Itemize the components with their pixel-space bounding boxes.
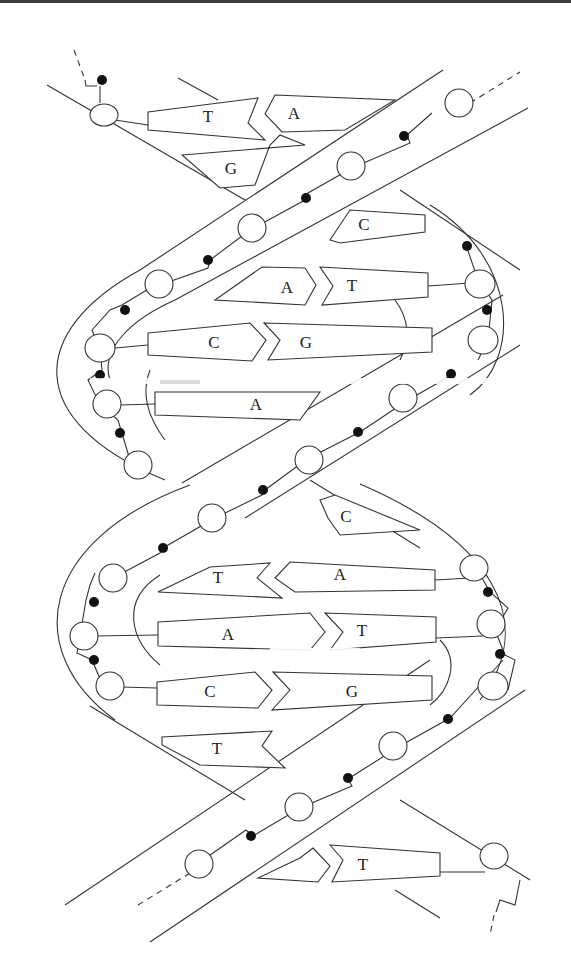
scan-smear (160, 380, 200, 384)
base-pair-5: C G (148, 323, 432, 361)
phosphate-icon (115, 428, 125, 438)
base-partial (258, 848, 330, 882)
base-label: T (212, 739, 223, 758)
base-T (162, 731, 285, 768)
phosphate-icon (399, 131, 409, 141)
strand-continuation-dash (74, 50, 85, 80)
base-pair-2: G (182, 135, 305, 188)
phosphate-icon (462, 241, 472, 251)
base-label: G (300, 333, 312, 352)
base-label: G (225, 159, 237, 178)
base-label: T (203, 107, 214, 126)
base-C (320, 495, 420, 535)
dna-double-helix-diagram: T A G C A T C G A C T A (0, 0, 571, 979)
base-pair-1: T A (148, 95, 395, 140)
base-label: A (334, 565, 347, 584)
sugar-icon (389, 384, 417, 412)
sugar-icon (96, 672, 124, 700)
phosphate-icon (482, 305, 492, 315)
sugar-icon (238, 214, 266, 242)
phosphate-icon (158, 543, 168, 553)
base-T (320, 267, 428, 305)
base-pair-6: A (155, 392, 320, 420)
sugar-icon (468, 326, 498, 354)
sugar-icon (85, 334, 115, 362)
base-label: T (358, 855, 369, 874)
base-label: A (222, 625, 235, 644)
base-A (275, 562, 435, 592)
phosphate-icon (97, 75, 107, 85)
phosphate-icon (343, 773, 353, 783)
base-G (264, 323, 432, 360)
sugar-icon (285, 793, 313, 821)
phosphate-icon (353, 427, 363, 437)
strand-continuation-dash (138, 870, 195, 905)
base-G (182, 135, 305, 188)
sugar-icon (90, 104, 118, 126)
base-T (325, 613, 436, 650)
sugar-icon (70, 622, 98, 650)
phosphate-icon (495, 649, 505, 659)
back-backbone-ribbon (47, 78, 530, 918)
phosphate-icon (246, 831, 256, 841)
sugar-icon (337, 152, 365, 180)
base-label: G (346, 682, 358, 701)
base-pair-3: C (330, 210, 425, 243)
sugar-icon (460, 555, 488, 581)
base-C (148, 323, 266, 361)
sugar-icon (198, 504, 226, 532)
sugar-icon (445, 89, 473, 117)
sugar-icon (295, 446, 323, 474)
sugar-icon (145, 270, 173, 298)
base-label: T (213, 568, 224, 587)
base-label: C (358, 215, 369, 234)
phosphate-icon (443, 714, 453, 724)
base-pair-7: C (320, 495, 420, 535)
strand-continuation-dash (490, 915, 494, 935)
base-label: C (340, 507, 351, 526)
base-label: A (281, 278, 294, 297)
base-C (330, 210, 425, 243)
sugar-icon (477, 610, 505, 638)
base-pair-10: C G (157, 672, 432, 710)
sugar-icon (478, 672, 508, 700)
base-A (265, 95, 395, 132)
sugars (70, 89, 508, 878)
scan-artifact-band (270, 648, 360, 651)
base-pair-9: A T (158, 613, 436, 650)
glycosidic-bonds (95, 120, 485, 872)
base-A (158, 613, 325, 650)
sugar-icon (93, 390, 121, 418)
sugar-icon (465, 270, 495, 298)
base-A (155, 392, 320, 420)
backbone-connectors (77, 80, 520, 912)
phosphate-icon (203, 255, 213, 265)
strand-continuation-dash (470, 72, 520, 103)
base-T (330, 845, 440, 882)
base-label: T (357, 621, 368, 640)
scan-artifact-band (90, 378, 510, 384)
phosphate-icon (120, 305, 130, 315)
base-A (215, 267, 316, 305)
sugar-icon (99, 564, 127, 592)
phosphate-icon (483, 587, 493, 597)
sugar-icon (480, 843, 508, 869)
base-pair-11: T (162, 731, 285, 768)
phosphate-icon (446, 369, 456, 379)
base-label: T (347, 276, 358, 295)
base-label: C (204, 682, 215, 701)
base-pair-4: A T (215, 267, 428, 305)
base-label: A (250, 395, 263, 414)
base-label: C (208, 333, 219, 352)
phosphate-icon (89, 655, 99, 665)
base-pair-8: T A (158, 562, 435, 598)
base-label: A (288, 104, 301, 123)
sugar-icon (185, 850, 213, 878)
phosphate-icon (89, 597, 99, 607)
sugar-icon (124, 451, 152, 479)
phosphate-icon (258, 485, 268, 495)
phosphate-icon (301, 193, 311, 203)
sugar-icon (379, 732, 407, 760)
